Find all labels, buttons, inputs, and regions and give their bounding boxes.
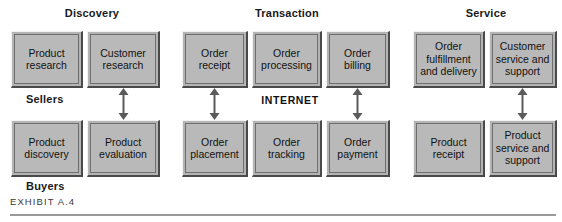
process-box-label: Product research: [14, 34, 79, 84]
process-box-product-receipt[interactable]: Product receipt: [413, 120, 485, 177]
box-line-1: Product: [99, 136, 147, 148]
process-box-order-receipt[interactable]: Order receipt: [182, 31, 248, 88]
box-line-2: discovery: [24, 148, 68, 160]
box-line-1: Customer: [496, 40, 550, 52]
box-line-2: fulfillment: [420, 53, 477, 65]
box-line-1: Order: [420, 40, 477, 52]
process-box-order-processing[interactable]: Order processing: [252, 31, 322, 88]
box-line-3: and delivery: [420, 65, 477, 77]
process-box-label: Product service and support: [492, 123, 553, 173]
box-line-1: Order: [199, 47, 231, 59]
process-box-product-service-and-support[interactable]: Product service and support: [489, 120, 557, 177]
process-box-label: Product evaluation: [90, 123, 156, 173]
box-line-2: evaluation: [99, 148, 147, 160]
box-line-2: payment: [337, 148, 377, 160]
box-line-2: service and: [496, 53, 550, 65]
exhibit-caption: EXHIBIT A.4: [10, 196, 75, 207]
process-box-label: Product receipt: [416, 123, 481, 173]
process-box-label: Order fulfillment and delivery: [416, 34, 481, 84]
box-line-1: Order: [261, 47, 312, 59]
exhibit-diagram: Discovery Transaction Service Product re…: [0, 0, 562, 222]
role-label-sellers: Sellers: [26, 93, 63, 105]
process-box-label: Order tracking: [255, 123, 318, 173]
box-line-3: support: [496, 65, 550, 77]
process-box-label: Customer research: [90, 34, 156, 84]
role-label-buyers: Buyers: [26, 180, 65, 192]
process-box-label: Order placement: [185, 123, 244, 173]
phase-header-discovery: Discovery: [22, 7, 162, 19]
box-line-1: Order: [190, 136, 238, 148]
connector-order-receipt-to-order-placement: [208, 88, 221, 120]
box-line-1: Customer: [100, 47, 146, 59]
connector-customer-service-to-product-service: [516, 88, 529, 120]
process-box-product-evaluation[interactable]: Product evaluation: [87, 120, 160, 177]
box-line-1: Order: [337, 136, 377, 148]
exhibit-divider: [10, 214, 556, 216]
process-box-order-placement[interactable]: Order placement: [182, 120, 248, 177]
process-box-label: Order payment: [329, 123, 386, 173]
box-line-1: Product: [26, 47, 67, 59]
phase-header-service: Service: [415, 7, 557, 19]
box-line-1: Product: [496, 129, 550, 141]
connector-customer-research-to-product-evaluation: [117, 88, 130, 120]
box-line-2: tracking: [268, 148, 305, 160]
process-box-label: Product discovery: [14, 123, 79, 173]
phase-header-transaction: Transaction: [217, 7, 357, 19]
process-box-label: Customer service and support: [492, 34, 553, 84]
box-line-2: billing: [344, 59, 371, 71]
box-line-2: research: [26, 59, 67, 71]
process-box-customer-research[interactable]: Customer research: [87, 31, 160, 88]
network-label-internet: INTERNET: [240, 94, 340, 106]
box-line-2: receipt: [430, 148, 466, 160]
box-line-1: Product: [24, 136, 68, 148]
box-line-2: processing: [261, 59, 312, 71]
process-box-product-discovery[interactable]: Product discovery: [11, 120, 83, 177]
box-line-2: receipt: [199, 59, 231, 71]
process-box-order-fulfillment-and-delivery[interactable]: Order fulfillment and delivery: [413, 31, 485, 88]
process-box-label: Order receipt: [185, 34, 244, 84]
connector-order-billing-to-order-payment: [351, 88, 364, 120]
box-line-2: service and: [496, 142, 550, 154]
box-line-2: placement: [190, 148, 238, 160]
process-box-product-research[interactable]: Product research: [11, 31, 83, 88]
process-box-order-payment[interactable]: Order payment: [326, 120, 390, 177]
box-line-1: Product: [430, 136, 466, 148]
box-line-1: Order: [268, 136, 305, 148]
box-line-2: research: [100, 59, 146, 71]
box-line-3: support: [496, 154, 550, 166]
process-box-label: Order billing: [329, 34, 386, 84]
process-box-order-billing[interactable]: Order billing: [326, 31, 390, 88]
box-line-1: Order: [344, 47, 371, 59]
process-box-customer-service-and-support[interactable]: Customer service and support: [489, 31, 557, 88]
process-box-order-tracking[interactable]: Order tracking: [252, 120, 322, 177]
process-box-label: Order processing: [255, 34, 318, 84]
